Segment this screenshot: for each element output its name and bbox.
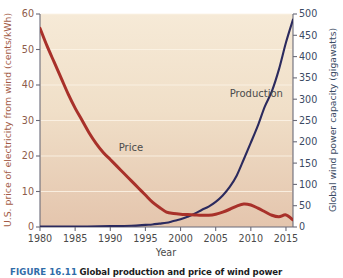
- x-axis-ticks: 19801985199019952000200520102015: [28, 227, 298, 244]
- right-axis-ticks: 050100150200250300350400450500: [293, 8, 317, 232]
- right-tick-label: 150: [299, 158, 317, 169]
- x-tick-label: 2010: [239, 233, 263, 244]
- x-axis-title: Year: [155, 247, 176, 258]
- left-tick-label: 50: [22, 44, 34, 55]
- right-tick-label: 100: [299, 179, 317, 190]
- left-tick-label: 40: [22, 79, 34, 90]
- left-axis-title: U.S. price of electricity from wind (cen…: [2, 13, 13, 227]
- x-tick-label: 1995: [133, 233, 157, 244]
- figure-container: 0102030405060 05010015020025030035040045…: [0, 0, 343, 278]
- production-series-annotation: Production: [230, 88, 283, 99]
- right-tick-label: 500: [299, 8, 317, 19]
- right-tick-label: 50: [299, 200, 311, 211]
- right-tick-label: 300: [299, 94, 317, 105]
- right-tick-label: 400: [299, 51, 317, 62]
- left-tick-label: 60: [22, 8, 34, 19]
- wind-power-chart: 0102030405060 05010015020025030035040045…: [0, 0, 343, 262]
- figure-number: FIGURE 16.11: [10, 267, 77, 277]
- right-tick-label: 350: [299, 72, 317, 83]
- right-axis-title: Global wind power capacity (gigawatts): [327, 28, 338, 212]
- right-tick-label: 200: [299, 136, 317, 147]
- x-tick-label: 2015: [274, 233, 298, 244]
- x-tick-label: 2005: [203, 233, 227, 244]
- left-tick-label: 0: [28, 221, 34, 232]
- figure-caption: FIGURE 16.11 Global production and price…: [10, 267, 340, 278]
- price-series-annotation: Price: [119, 142, 143, 153]
- left-tick-label: 30: [22, 115, 34, 126]
- x-tick-label: 2000: [168, 233, 192, 244]
- right-tick-label: 450: [299, 30, 317, 41]
- right-tick-label: 250: [299, 115, 317, 126]
- left-tick-label: 20: [22, 150, 34, 161]
- figure-caption-text: Global production and price of wind powe…: [80, 267, 283, 277]
- x-tick-label: 1990: [98, 233, 122, 244]
- right-tick-label: 0: [299, 221, 305, 232]
- x-tick-label: 1985: [63, 233, 87, 244]
- x-tick-label: 1980: [28, 233, 52, 244]
- chart-plot-area: 0102030405060 05010015020025030035040045…: [0, 0, 343, 262]
- left-axis-ticks: 0102030405060: [22, 8, 40, 232]
- left-tick-label: 10: [22, 186, 34, 197]
